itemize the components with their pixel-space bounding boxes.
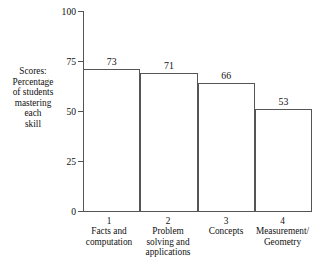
bar-value-label: 73 (107, 56, 117, 67)
x-category-line: Geometry (249, 237, 316, 247)
y-tick-label: 50 (66, 106, 76, 117)
y-axis-caption-line: Scores: (2, 66, 64, 77)
x-category-2: 2 Problem solving and applications (137, 216, 199, 258)
bar (255, 109, 312, 212)
y-tick-label: 0 (71, 206, 76, 217)
x-category-line: solving and (137, 237, 199, 247)
y-axis-caption-line: Percentage (2, 77, 64, 88)
bar (140, 73, 197, 212)
bar-value-label: 71 (164, 60, 174, 71)
y-axis-caption: Scores: Percentage of students mastering… (2, 66, 64, 130)
bar-value-label: 66 (221, 70, 231, 81)
bar-value-label: 53 (278, 96, 288, 107)
x-category-number: 1 (78, 216, 140, 226)
x-category-3: 3 Concepts (195, 216, 257, 237)
y-tick-label: 75 (66, 56, 76, 67)
x-category-number: 2 (137, 216, 199, 226)
x-category-1: 1 Facts and computation (78, 216, 140, 247)
x-category-line: Measurement/ (249, 226, 316, 236)
bottom-caption (0, 267, 317, 274)
y-axis-caption-line: skill (2, 119, 64, 130)
y-axis-caption-line: each (2, 108, 64, 119)
x-category-4: 4 Measurement/ Geometry (249, 216, 316, 247)
x-category-line: Facts and (78, 226, 140, 236)
y-axis-caption-line: mastering (2, 98, 64, 109)
bar-chart: Scores: Percentage of students mastering… (0, 0, 317, 274)
x-category-line: applications (137, 247, 199, 257)
y-axis-caption-line: of students (2, 87, 64, 98)
bar (198, 83, 255, 212)
x-category-number: 4 (249, 216, 316, 226)
x-category-number: 3 (195, 216, 257, 226)
y-tick-label: 25 (66, 156, 76, 167)
plot-area: 0 25 50 75 100 73 71 66 53 (83, 11, 312, 211)
bar (83, 69, 140, 212)
x-category-line: Problem (137, 226, 199, 236)
x-category-line: Concepts (195, 226, 257, 236)
y-tick-label: 100 (62, 6, 76, 17)
x-category-line: computation (78, 237, 140, 247)
